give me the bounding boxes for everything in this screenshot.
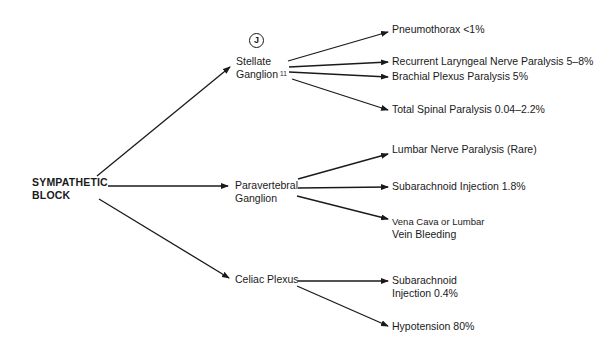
vena-cava-line1: Vena Cava or Lumbar	[392, 215, 484, 228]
outcome-brachial-plexus-paralysis: Brachial Plexus Paralysis 5%	[392, 70, 528, 83]
celiac-subarachnoid-line1: Subarachnoid	[392, 274, 458, 287]
paravertebral-line1: Paravertebral	[235, 179, 298, 192]
outcome-total-spinal-paralysis: Total Spinal Paralysis 0.04–2.2%	[392, 103, 545, 116]
root-node-sympathetic-block: SYMPATHETIC BLOCK	[32, 176, 108, 202]
outcome-recurrent-laryngeal-nerve-paralysis: Recurrent Laryngeal Nerve Paralysis 5–8%	[392, 55, 593, 68]
arrow-stellate-to-pneumothorax	[288, 32, 388, 61]
root-label-line2: BLOCK	[32, 189, 108, 202]
arrow-stellate-to-total-spinal	[292, 79, 388, 110]
stellate-line2: Ganglion	[236, 68, 278, 80]
arrow-root-to-stellate	[97, 67, 230, 176]
arrow-paravertebral-to-vena-cava	[297, 196, 388, 219]
branch-celiac-plexus: Celiac Plexus	[235, 273, 299, 286]
paravertebral-line2: Ganglion	[235, 192, 298, 205]
outcome-lumbar-nerve-paralysis: Lumbar Nerve Paralysis (Rare)	[392, 143, 537, 156]
arrow-paravertebral-to-subarachnoid	[298, 187, 388, 188]
arrow-paravertebral-to-lumbar	[298, 154, 388, 179]
arrow-root-to-celiac	[99, 199, 229, 278]
stellate-reference-superscript: 11	[280, 70, 287, 77]
branch-paravertebral-ganglion: Paravertebral Ganglion	[235, 179, 298, 205]
outcome-subarachnoid-injection-celiac: Subarachnoid Injection 0.4%	[392, 274, 458, 300]
celiac-subarachnoid-line2: Injection 0.4%	[392, 287, 458, 300]
stellate-line1: Stellate	[236, 55, 287, 68]
branch-stellate-ganglion: Stellate Ganglion11	[236, 55, 287, 81]
root-label-line1: SYMPATHETIC	[32, 176, 108, 189]
outcome-subarachnoid-injection-paravertebral: Subarachnoid Injection 1.8%	[392, 180, 526, 193]
vena-cava-line2: Vein Bleeding	[392, 228, 484, 241]
outcome-hypotension: Hypotension 80%	[392, 320, 474, 333]
circled-marker-j: J	[249, 33, 264, 48]
outcome-vena-cava-lumbar-vein-bleeding: Vena Cava or Lumbar Vein Bleeding	[392, 215, 484, 241]
arrow-celiac-to-hypotension	[297, 286, 388, 326]
outcome-pneumothorax: Pneumothorax <1%	[392, 23, 485, 36]
arrow-stellate-to-brachial	[289, 72, 388, 77]
arrow-stellate-to-laryngeal	[289, 62, 388, 67]
